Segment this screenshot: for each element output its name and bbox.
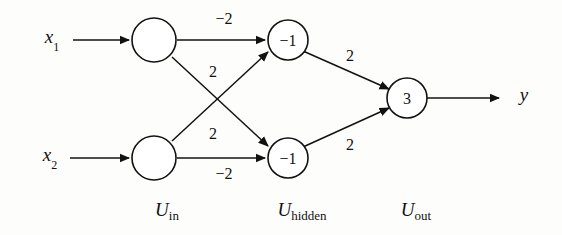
layer-label-in-u: U — [155, 199, 169, 220]
node-hidden-2-value: −1 — [279, 151, 296, 167]
network-diagram: −1 −1 3 x1 x2 y −2 2 2 −2 2 2 Uin Uhidde… — [0, 0, 562, 235]
layer-label-hidden: Uhidden — [277, 200, 326, 219]
layer-label-in: Uin — [155, 200, 179, 219]
weight-in1-hidden1-label: −2 — [215, 11, 232, 27]
layer-label-out-u: U — [401, 199, 415, 220]
weight-hidden1-out-label: 2 — [346, 48, 354, 64]
layer-label-out: Uout — [401, 200, 431, 219]
edge-in1-to-hidden2 — [172, 57, 268, 146]
input-x2-sub: 2 — [51, 157, 57, 171]
weight-in1-hidden2-label: 2 — [209, 64, 217, 80]
layer-label-hidden-sub: hidden — [291, 208, 326, 223]
weight-hidden2-out-label: 2 — [346, 137, 354, 153]
layer-label-out-sub: out — [415, 208, 432, 223]
output-y-label: y — [520, 85, 528, 104]
input-x1-label: x1 — [45, 27, 59, 50]
weight-in2-hidden1-label: 2 — [209, 126, 217, 142]
input-x2-label: x2 — [43, 145, 57, 168]
layer-label-in-sub: in — [169, 208, 179, 223]
node-in-2-circle — [132, 136, 176, 180]
layer-label-hidden-u: U — [277, 199, 291, 220]
weight-in2-hidden2-label: −2 — [215, 166, 232, 182]
node-out-value: 3 — [403, 91, 411, 107]
node-hidden-1-value: −1 — [279, 33, 296, 49]
edge-in2-to-hidden1 — [172, 52, 268, 141]
input-x1-sub: 1 — [53, 39, 59, 53]
node-in-1-circle — [132, 18, 176, 62]
